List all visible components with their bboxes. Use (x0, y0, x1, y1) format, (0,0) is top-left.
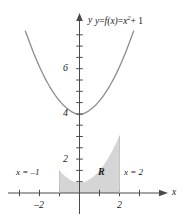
y-tick-label-6: 6 (63, 63, 68, 73)
y-tick-label-4: 4 (63, 108, 68, 118)
region-label-R: R (98, 167, 105, 177)
eq-fx: f(x) (105, 16, 118, 26)
x-axis-label: x (172, 188, 176, 198)
eq-tail: + 1 (131, 16, 143, 26)
y-axis-label: y (88, 16, 92, 26)
right-boundary-label: x = 2 (124, 168, 143, 177)
function-equation-label: y=f(x)=x2+ 1 (95, 15, 143, 27)
left-boundary-label: x = –1 (16, 168, 40, 177)
x-tick-label-neg2: –2 (34, 200, 44, 210)
figure-container: y x y=f(x)=x2+ 1 6 4 2 –2 2 x = –1 x = 2… (0, 0, 187, 222)
y-tick-label-2: 2 (63, 154, 68, 164)
graph (0, 0, 187, 222)
x-tick-label-2: 2 (117, 200, 122, 210)
